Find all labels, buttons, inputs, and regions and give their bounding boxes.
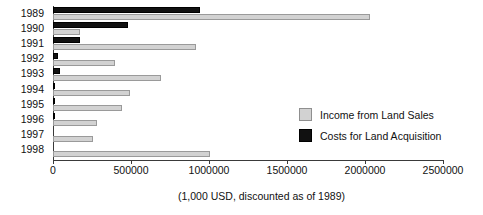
- x-axis-line: [53, 160, 444, 161]
- y-axis-label-1989: 1989: [21, 8, 44, 19]
- x-axis-tick-3: [287, 160, 288, 164]
- bar-income-1991: [53, 44, 196, 50]
- y-axis-label-1997: 1997: [21, 129, 44, 140]
- y-axis-label-1993: 1993: [21, 68, 44, 79]
- x-axis-tick-label-3: 1500000: [267, 164, 308, 176]
- bar-cost-1994: [53, 83, 55, 89]
- chart-legend: Income from Land Sales Costs for Land Ac…: [299, 108, 441, 150]
- x-axis-tick-2: [209, 160, 210, 164]
- x-axis-tick-labels: 05000001000000150000020000002500000: [0, 164, 483, 178]
- x-axis-tick-label-1: 500000: [113, 164, 148, 176]
- income-swatch-icon: [299, 108, 312, 121]
- bar-cost-1996: [53, 113, 55, 119]
- x-axis-tick-4: [365, 160, 366, 164]
- bar-cost-1989: [53, 7, 200, 13]
- y-axis-label-1995: 1995: [21, 99, 44, 110]
- bar-cost-1992: [53, 53, 58, 59]
- y-axis-tick-labels: 1989199019911992199319941995199619971998: [0, 6, 48, 158]
- bar-income-1997: [53, 136, 93, 142]
- x-axis-tick-label-2: 1000000: [189, 164, 230, 176]
- bar-cost-1993: [53, 68, 60, 74]
- cost-swatch-icon: [299, 129, 312, 142]
- y-axis-label-1996: 1996: [21, 114, 44, 125]
- legend-item-income: Income from Land Sales: [299, 108, 441, 121]
- y-axis-label-1990: 1990: [21, 23, 44, 34]
- chart-caption-text: (1,000 USD, discounted as of 1989): [138, 190, 345, 202]
- bar-income-1989: [53, 14, 370, 20]
- x-axis-tick-5: [443, 160, 444, 164]
- bar-income-1995: [53, 105, 122, 111]
- bar-cost-1991: [53, 37, 80, 43]
- y-axis-label-1991: 1991: [21, 38, 44, 49]
- x-axis-tick-label-0: 0: [50, 164, 56, 176]
- chart-caption: (1,000 USD, discounted as of 1989): [0, 190, 483, 202]
- x-axis-tick-0: [53, 160, 54, 164]
- legend-label-income: Income from Land Sales: [320, 109, 434, 121]
- bar-cost-1990: [53, 22, 128, 28]
- legend-item-costs: Costs for Land Acquisition: [299, 129, 441, 142]
- x-axis-tick-label-5: 2500000: [423, 164, 464, 176]
- bar-income-1993: [53, 75, 161, 81]
- y-axis-label-1992: 1992: [21, 53, 44, 64]
- x-axis-tick-label-4: 2000000: [345, 164, 386, 176]
- x-axis-tick-1: [131, 160, 132, 164]
- bar-income-1998: [53, 151, 210, 157]
- legend-label-costs: Costs for Land Acquisition: [320, 130, 441, 142]
- bar-chart: 1989199019911992199319941995199619971998…: [0, 0, 483, 215]
- bar-income-1992: [53, 60, 115, 66]
- bar-cost-1995: [53, 98, 55, 104]
- bar-income-1990: [53, 29, 80, 35]
- y-axis-label-1998: 1998: [21, 144, 44, 155]
- y-axis-label-1994: 1994: [21, 84, 44, 95]
- bar-income-1996: [53, 120, 97, 126]
- bar-income-1994: [53, 90, 130, 96]
